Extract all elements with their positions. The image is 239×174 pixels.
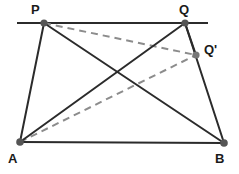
vertex-label-Qprime: Q' xyxy=(204,43,217,56)
vertex-label-Q: Q xyxy=(179,3,189,16)
segment-A-Q xyxy=(20,23,185,142)
vertex-label-A: A xyxy=(8,152,17,165)
segment-A-Qprime xyxy=(20,55,196,142)
figure-canvas xyxy=(0,0,239,174)
vertex-label-P: P xyxy=(31,3,40,16)
vertex-dot-Q xyxy=(181,19,188,26)
segment-Q-Qprime xyxy=(185,23,196,55)
vertex-dot-A xyxy=(16,138,24,146)
geometry-diagram: P Q Q' A B xyxy=(0,0,239,174)
vertex-dot-P xyxy=(40,19,47,26)
vertex-label-B: B xyxy=(215,152,224,165)
segment-A-P xyxy=(20,23,44,142)
segment-A-B xyxy=(20,142,224,143)
segment-P-B xyxy=(44,23,224,143)
vertex-dot-Qprime xyxy=(192,51,199,58)
vertex-dot-B xyxy=(220,139,228,147)
